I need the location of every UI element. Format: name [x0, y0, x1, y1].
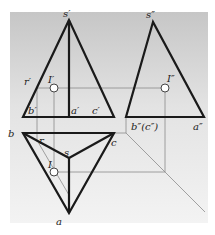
label-a-double-prime: a″: [193, 121, 203, 132]
label-s-double-prime: s″: [146, 9, 155, 20]
label-s-prime: s′: [63, 8, 71, 19]
label-r-prime: r′: [24, 76, 32, 87]
projection-diagram: s′ r′ I′ b′ a′ c′ s″ I″ b″(c″) a″ b r s …: [0, 0, 215, 235]
label-i-double-prime: I″: [166, 73, 175, 84]
point-i-side-marker: [161, 84, 169, 92]
label-b-c-double-prime: b″(c″): [131, 121, 158, 132]
label-a-prime: a′: [71, 105, 80, 116]
label-i-prime: I′: [47, 74, 55, 85]
label-b-prime: b′: [28, 105, 37, 116]
label-b: b: [8, 128, 14, 139]
label-a: a: [56, 216, 62, 227]
label-c: c: [111, 137, 117, 148]
point-i-front-marker: [50, 84, 58, 92]
label-s: s: [64, 147, 69, 158]
label-c-prime: c′: [92, 105, 101, 116]
